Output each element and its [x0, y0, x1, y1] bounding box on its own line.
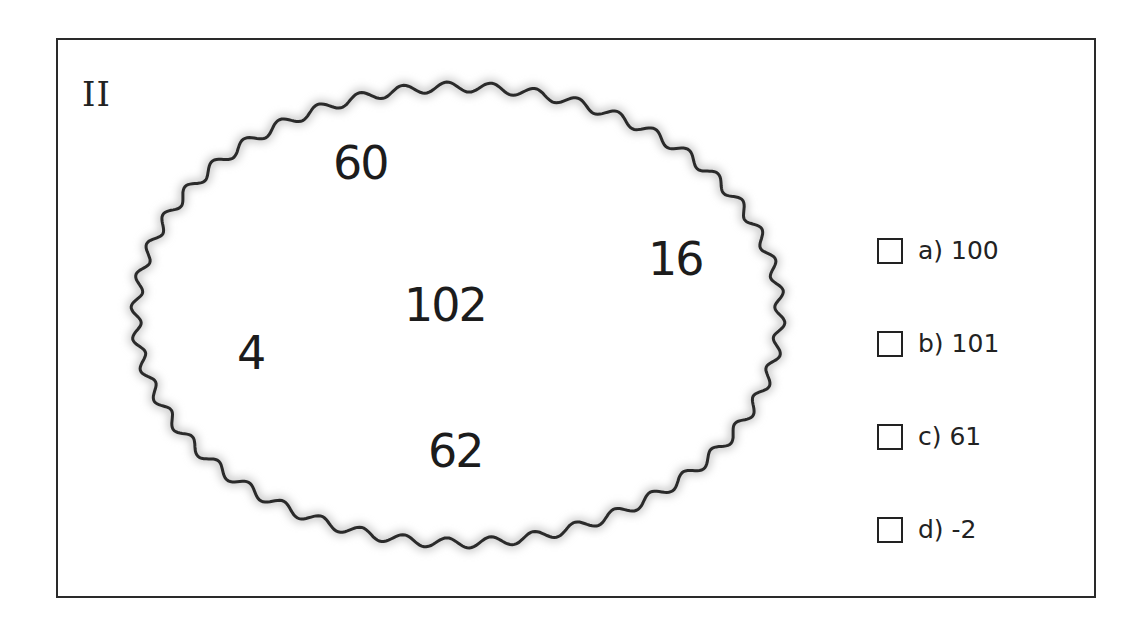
option-text: 100 [951, 236, 999, 265]
checkbox[interactable] [877, 424, 903, 450]
option-letter: b) [918, 329, 944, 358]
region-value: 16 [648, 232, 703, 286]
option-text: 61 [949, 422, 981, 451]
option-text: -2 [952, 515, 977, 544]
region-value: 4 [237, 326, 264, 380]
option-letter: d) [918, 515, 944, 544]
option-d[interactable]: d) -2 [877, 515, 977, 544]
region-value: 62 [428, 424, 483, 478]
checkbox[interactable] [877, 517, 903, 543]
checkbox[interactable] [877, 331, 903, 357]
checkbox[interactable] [877, 238, 903, 264]
option-a[interactable]: a) 100 [877, 236, 999, 265]
region-value: 60 [333, 136, 388, 190]
option-c[interactable]: c) 61 [877, 422, 981, 451]
option-text: 101 [952, 329, 1000, 358]
option-b[interactable]: b) 101 [877, 329, 999, 358]
option-letter: c) [918, 422, 942, 451]
option-letter: a) [918, 236, 943, 265]
region-value: 102 [404, 278, 486, 332]
